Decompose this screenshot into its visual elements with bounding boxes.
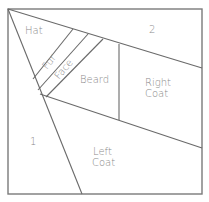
label-hat: Hat <box>25 25 43 36</box>
left-diagonal-line <box>8 9 82 194</box>
top-diagonal-line <box>8 9 202 68</box>
label-region-1: 1 <box>30 136 36 147</box>
face-beard-divider <box>46 39 103 97</box>
label-region-2: 2 <box>149 24 155 35</box>
label-left-coat-line2: Coat <box>92 157 115 168</box>
pattern-diagram: Hat Fur Face Beard Right Coat Left Coat … <box>0 0 209 202</box>
lower-diagonal-line <box>40 94 202 148</box>
label-right-coat-line1: Right <box>145 77 171 88</box>
label-beard: Beard <box>80 74 109 85</box>
label-right-coat-line2: Coat <box>145 88 168 99</box>
label-left-coat-line1: Left <box>93 146 112 157</box>
